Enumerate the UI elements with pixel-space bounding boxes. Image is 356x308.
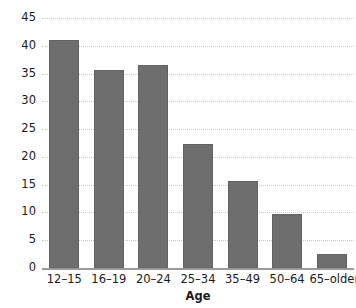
y-axis-tick-label: 30 — [0, 95, 36, 107]
y-axis-tick-label: 20 — [0, 151, 36, 163]
x-axis-tick-label: 65–older — [309, 273, 354, 286]
gridline — [42, 18, 354, 19]
gridline — [42, 129, 354, 130]
y-axis-tick-label: 15 — [0, 179, 36, 191]
y-axis-tick-label: 10 — [0, 206, 36, 218]
x-axis-tick-label: 50–64 — [265, 273, 310, 286]
y-axis-tick-label: 35 — [0, 68, 36, 80]
x-axis-tick-label: 35–49 — [220, 273, 265, 286]
gridline — [42, 101, 354, 102]
x-axis-tick-label: 12–15 — [42, 273, 87, 286]
x-axis-tick-label: 16–19 — [87, 273, 132, 286]
bar — [138, 65, 168, 268]
bar — [272, 214, 302, 268]
x-axis-tick-label: 20–24 — [131, 273, 176, 286]
bar — [94, 70, 124, 268]
y-axis-tick-label: 25 — [0, 123, 36, 135]
x-axis-title: Age — [42, 289, 354, 303]
y-axis-tick-label: 45 — [0, 12, 36, 24]
y-axis-tick-label: 0 — [0, 262, 36, 274]
x-axis-tick-label: 25–34 — [176, 273, 221, 286]
y-axis-tick-label: 40 — [0, 40, 36, 52]
gridline — [42, 46, 354, 47]
bar — [49, 40, 79, 268]
gridline — [42, 74, 354, 75]
y-axis-tick-label: 5 — [0, 234, 36, 246]
bar — [183, 144, 213, 268]
bar — [317, 254, 347, 268]
x-axis-line — [42, 268, 354, 270]
bar — [228, 181, 258, 268]
bar-chart: Age 05101520253035404512–1516–1920–2425–… — [0, 0, 356, 308]
plot-area — [42, 18, 354, 268]
